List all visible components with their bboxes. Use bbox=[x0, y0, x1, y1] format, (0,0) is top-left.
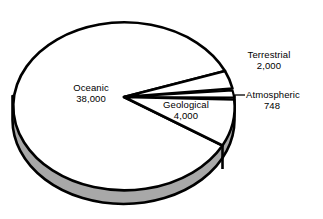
slice-label-oceanic: Oceanic 38,000 bbox=[62, 82, 120, 104]
slice-label-atmospheric-value: 748 bbox=[246, 100, 298, 111]
slice-label-atmospheric: Atmospheric 748 bbox=[246, 89, 318, 111]
slice-label-geological: Geological 4,000 bbox=[155, 99, 217, 121]
slice-label-oceanic-value: 38,000 bbox=[62, 93, 120, 104]
slice-label-terrestrial: Terrestrial 2,000 bbox=[238, 49, 300, 71]
slice-label-geological-value: 4,000 bbox=[155, 110, 217, 121]
slice-label-atmospheric-name: Atmospheric bbox=[246, 89, 318, 100]
slice-label-oceanic-name: Oceanic bbox=[62, 82, 120, 93]
slice-label-geological-name: Geological bbox=[155, 99, 217, 110]
pie-chart-figure: Oceanic 38,000 Terrestrial 2,000 Atmosph… bbox=[0, 0, 323, 219]
slice-label-terrestrial-name: Terrestrial bbox=[238, 49, 300, 60]
slice-label-terrestrial-value: 2,000 bbox=[238, 60, 300, 71]
